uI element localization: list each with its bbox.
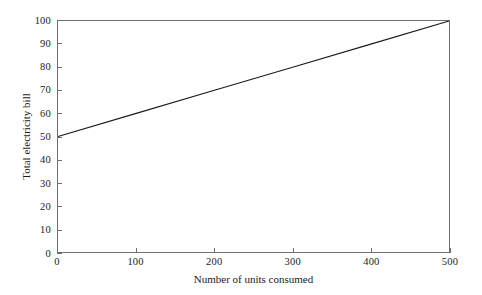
chart-figure: 0 10 20 30 40 50 60 70 80 90 100 0 100 2…: [0, 0, 482, 295]
x-tick-label: 300: [285, 256, 301, 268]
y-tick-label: 0: [46, 248, 51, 259]
x-tick-label: 0: [54, 256, 59, 268]
plot-area: [57, 20, 450, 253]
y-tick-label: 90: [40, 38, 51, 49]
x-axis-title: Number of units consumed: [57, 273, 450, 286]
y-tick-label: 60: [40, 108, 51, 119]
y-tick-mark: [57, 253, 62, 254]
data-line-svg: [58, 21, 449, 252]
y-tick-label: 20: [40, 201, 51, 212]
y-tick-label: 70: [40, 84, 51, 95]
series-line-total-electricity-bill: [58, 21, 449, 137]
y-tick-label: 80: [40, 61, 51, 72]
y-axis-title: Total electricity bill: [19, 20, 33, 253]
y-tick-label: 40: [40, 154, 51, 165]
x-tick-label: 100: [127, 256, 143, 268]
y-tick-label: 10: [40, 224, 51, 235]
y-tick-label: 30: [40, 178, 51, 189]
y-tick-label: 100: [35, 15, 51, 26]
x-tick-label: 200: [206, 256, 222, 268]
x-tick-mark: [450, 248, 451, 253]
x-tick-label: 500: [442, 256, 458, 268]
x-tick-label: 400: [363, 256, 379, 268]
y-tick-label: 50: [40, 131, 51, 142]
